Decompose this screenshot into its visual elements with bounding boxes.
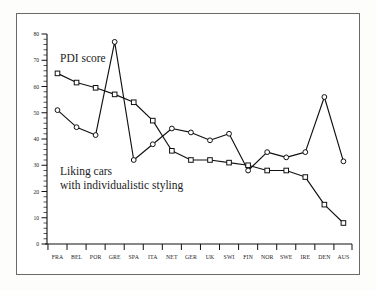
y-tick-label-70: 70 <box>33 57 39 63</box>
marker-square <box>170 149 175 154</box>
marker-square <box>150 118 155 123</box>
marker-circle <box>284 155 289 160</box>
marker-circle <box>227 131 232 136</box>
marker-circle <box>341 159 346 164</box>
y-tick-label-30: 30 <box>33 162 39 168</box>
marker-square <box>284 168 289 173</box>
marker-circle <box>246 168 251 173</box>
marker-circle <box>169 126 174 131</box>
axes-group <box>45 34 352 244</box>
x-tick-label-ITA: ITA <box>148 254 158 260</box>
series-line-2 <box>57 73 343 223</box>
data-series-group <box>55 39 346 225</box>
y-tick-label-10: 10 <box>33 215 39 221</box>
x-tick-label-SWI: SWI <box>224 254 235 260</box>
annotation-liking-cars-line2: with individualistic styling <box>60 179 184 192</box>
marker-circle <box>55 108 60 113</box>
x-tick-label-SWE: SWE <box>280 254 293 260</box>
marker-square <box>189 158 194 163</box>
marker-circle <box>208 138 213 143</box>
y-tick-label-80: 80 <box>33 31 39 37</box>
x-tick-label-FIN: FIN <box>243 254 253 260</box>
y-tick-label-50: 50 <box>33 110 39 116</box>
x-tick-label-POR: POR <box>90 254 102 260</box>
x-tick-label-DEN: DEN <box>318 254 331 260</box>
y-tick-label-60: 60 <box>33 84 39 90</box>
x-tick-label-NET: NET <box>166 254 178 260</box>
x-axis-tick-labels: FRABELPORGRESPAITANETGERUKSWIFINNORSWEIR… <box>52 254 350 260</box>
line-chart: 01020304050607080 FRABELPORGRESPAITANETG… <box>0 0 376 291</box>
marker-square <box>227 160 232 165</box>
marker-circle <box>322 95 327 100</box>
annotation-pdi-score: PDI score <box>60 52 106 64</box>
marker-square <box>322 202 327 207</box>
marker-square <box>112 92 117 97</box>
x-tick-label-BEL: BEL <box>71 254 83 260</box>
marker-square <box>55 71 60 76</box>
x-tick-label-IRE: IRE <box>300 254 310 260</box>
x-tick-label-GRE: GRE <box>109 254 121 260</box>
x-tick-label-UK: UK <box>206 254 215 260</box>
marker-circle <box>131 158 136 163</box>
y-tick-label-40: 40 <box>33 136 39 142</box>
marker-square <box>208 158 213 163</box>
x-tick-label-AUS: AUS <box>337 254 349 260</box>
marker-square <box>341 221 346 226</box>
marker-square <box>74 80 79 85</box>
y-tick-label-0: 0 <box>36 241 39 247</box>
marker-circle <box>303 150 308 155</box>
marker-square <box>131 100 136 105</box>
x-tick-label-SPA: SPA <box>129 254 140 260</box>
marker-square <box>93 86 98 91</box>
marker-circle <box>265 150 270 155</box>
series-2 <box>55 71 346 225</box>
x-tick-label-NOR: NOR <box>261 254 274 260</box>
marker-circle <box>189 130 194 135</box>
figure-canvas: 01020304050607080 FRABELPORGRESPAITANETG… <box>0 0 376 291</box>
y-axis-tick-labels: 01020304050607080 <box>33 31 39 247</box>
annotation-liking-cars-line1: Liking cars <box>60 165 113 178</box>
marker-circle <box>93 133 98 138</box>
y-tick-label-20: 20 <box>33 189 39 195</box>
marker-circle <box>112 39 117 44</box>
marker-square <box>265 168 270 173</box>
x-tick-label-GER: GER <box>185 254 197 260</box>
marker-square <box>303 175 308 180</box>
marker-circle <box>150 142 155 147</box>
marker-square <box>246 163 251 168</box>
marker-circle <box>74 125 79 130</box>
x-tick-label-FRA: FRA <box>52 254 64 260</box>
x-axis-ticks <box>48 244 352 250</box>
